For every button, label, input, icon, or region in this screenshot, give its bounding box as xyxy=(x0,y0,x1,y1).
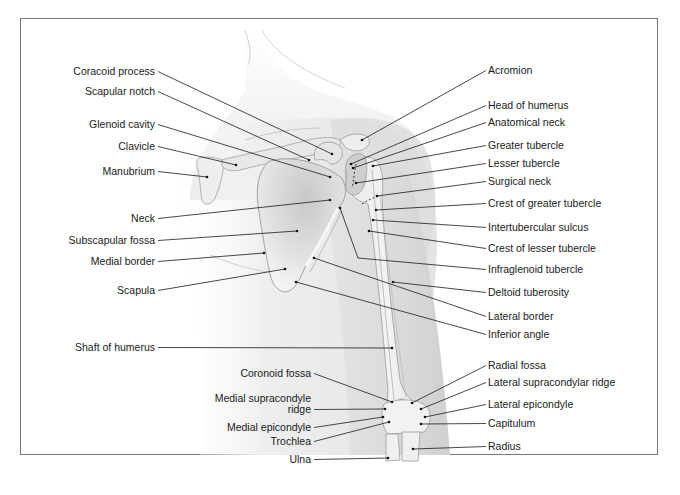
pointer-dot xyxy=(382,416,385,419)
label-text: Lateral supracondylar ridge xyxy=(488,376,615,388)
label-text: Greater tubercle xyxy=(488,139,564,151)
pointer-dot xyxy=(350,163,353,166)
label-text: Intertubercular sulcus xyxy=(488,221,588,233)
label-text: Radial fossa xyxy=(488,359,546,371)
shoulder-humerus-diagram: Coracoid processScapular notchGlenoid ca… xyxy=(0,0,680,495)
pointer-dot xyxy=(391,401,394,404)
pointer-dot xyxy=(263,252,266,255)
label-text: Neck xyxy=(131,212,156,224)
pointer-dot xyxy=(308,159,311,162)
label-text: Radius xyxy=(488,440,521,452)
label-text: Inferior angle xyxy=(488,328,549,340)
label-text: Scapular notch xyxy=(85,85,155,97)
pointer-dot xyxy=(355,182,358,185)
label-text: Lateral border xyxy=(488,310,554,322)
label-text: Clavicle xyxy=(118,140,155,152)
label-text: Medial epicondyle xyxy=(227,421,311,433)
pointer-dot xyxy=(339,207,342,210)
pointer-dot xyxy=(376,195,379,198)
pointer-dot xyxy=(368,230,371,233)
label-text: Medial border xyxy=(91,255,156,267)
pointer-dot xyxy=(331,153,334,156)
pointer-dot xyxy=(387,457,390,460)
leader-line xyxy=(158,348,392,349)
label-text: Capitulum xyxy=(488,417,536,429)
label-text: Anatomical neck xyxy=(488,116,566,128)
pointer-dot xyxy=(284,268,287,271)
anatomy-figure: Coracoid processScapular notchGlenoid ca… xyxy=(0,0,680,495)
pointer-dot xyxy=(235,164,238,167)
distal-humerus xyxy=(382,400,430,434)
leader-line xyxy=(314,458,388,460)
label-text: Crest of lesser tubercle xyxy=(488,242,596,254)
pointer-dot xyxy=(388,421,391,424)
pointer-dot xyxy=(329,199,332,202)
label-text: Head of humerus xyxy=(488,99,569,111)
pointer-dot xyxy=(384,408,387,411)
pointer-dot xyxy=(420,423,423,426)
leader-line xyxy=(421,424,486,425)
pointer-dot xyxy=(372,165,375,168)
pointer-dot xyxy=(206,176,209,179)
label-text: Infraglenoid tubercle xyxy=(488,263,583,275)
pointer-dot xyxy=(372,219,375,222)
label-text: Scapula xyxy=(117,284,155,296)
pointer-dot xyxy=(424,416,427,419)
label-text-line2: ridge xyxy=(288,403,312,415)
label-text: Ulna xyxy=(289,453,311,465)
label-text: Lesser tubercle xyxy=(488,157,560,169)
label-text: Lateral epicondyle xyxy=(488,398,573,410)
pointer-dot xyxy=(391,347,394,350)
label-text: Manubrium xyxy=(102,165,155,177)
label-text: Surgical neck xyxy=(488,175,552,187)
label-text: Glenoid cavity xyxy=(89,118,156,130)
pointer-dot xyxy=(411,402,414,405)
label-text: Subscapular fossa xyxy=(69,234,156,246)
label-text: Deltoid tuberosity xyxy=(488,286,570,298)
label-text: Trochlea xyxy=(271,435,312,447)
pointer-dot xyxy=(375,209,378,212)
pointer-dot xyxy=(361,139,364,142)
leader-line xyxy=(314,409,385,410)
pointer-dot xyxy=(392,281,395,284)
label-text: Crest of greater tubercle xyxy=(488,197,601,209)
label-text: Coracoid process xyxy=(73,65,155,77)
label-text: Coronoid fossa xyxy=(240,367,311,379)
pointer-dot xyxy=(295,281,298,284)
pointer-dot xyxy=(420,408,423,411)
pointer-dot xyxy=(313,257,316,260)
pointer-dot xyxy=(352,167,355,170)
pointer-dot xyxy=(412,448,415,451)
pointer-dot xyxy=(296,230,299,233)
pointer-dot xyxy=(329,176,332,179)
radius-bone xyxy=(402,432,420,461)
label-text: Shaft of humerus xyxy=(75,341,155,353)
label-text: Acromion xyxy=(488,64,533,76)
